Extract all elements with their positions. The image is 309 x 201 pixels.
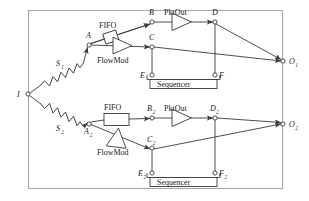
svg-text:1: 1 — [295, 62, 298, 68]
component-label-sequencer-top: Sequencer — [157, 80, 191, 89]
node-E[interactable] — [150, 73, 154, 77]
node-label-D: D — [211, 8, 218, 17]
node-A2[interactable] — [87, 122, 91, 126]
component-label-fifo-bottom: FIFO — [104, 103, 122, 112]
svg-text:2: 2 — [153, 140, 156, 146]
component-label-flowmod-top: FlowMod — [97, 56, 129, 65]
node-label-O2: O 2 — [289, 120, 298, 131]
svg-text:2: 2 — [225, 174, 228, 180]
node-O1[interactable] — [281, 59, 285, 63]
node-label-I: I — [16, 90, 20, 99]
component-label-pktout-top: PktOut — [164, 8, 187, 17]
component-label-sequencer-bottom: Sequencer — [157, 178, 191, 187]
svg-text:1: 1 — [61, 64, 64, 70]
node-label-A: A — [85, 31, 91, 40]
node-F2[interactable] — [213, 171, 217, 175]
node-C[interactable] — [150, 45, 154, 49]
block-diagram-svg: I A B C D E F O 1 A 2 B 2 C 2 D 2 E — [0, 0, 309, 201]
node-F[interactable] — [213, 73, 217, 77]
svg-text:E: E — [137, 169, 143, 178]
svg-text:2: 2 — [90, 132, 93, 138]
svg-text:S: S — [56, 59, 60, 68]
node-O2[interactable] — [281, 122, 285, 126]
svg-text:2: 2 — [216, 109, 219, 115]
node-label-B: B — [149, 8, 154, 17]
node-D[interactable] — [213, 20, 217, 24]
svg-text:S: S — [56, 124, 60, 133]
diagram-frame — [29, 11, 283, 189]
svg-text:D: D — [209, 104, 216, 113]
node-label-F: F — [218, 71, 224, 80]
component-label-flowmod-bottom: FlowMod — [97, 148, 129, 157]
node-label-O1: O 1 — [289, 57, 298, 68]
svg-text:B: B — [147, 104, 152, 113]
svg-text:A: A — [83, 127, 89, 136]
node-D2[interactable] — [213, 116, 217, 120]
node-E2[interactable] — [150, 171, 154, 175]
svg-text:2: 2 — [144, 174, 147, 180]
svg-text:O: O — [289, 120, 295, 129]
node-A[interactable] — [87, 43, 91, 47]
node-C2[interactable] — [150, 146, 154, 150]
svg-text:F: F — [218, 169, 224, 178]
node-label-C: C — [149, 33, 155, 42]
node-I[interactable] — [26, 92, 30, 96]
diagram-canvas: I A B C D E F O 1 A 2 B 2 C 2 D 2 E — [0, 0, 309, 201]
node-B2[interactable] — [150, 116, 154, 120]
svg-text:2: 2 — [295, 125, 298, 131]
node-B[interactable] — [150, 20, 154, 24]
node-label-E: E — [139, 71, 145, 80]
svg-text:2: 2 — [61, 129, 64, 135]
component-label-fifo-top: FIFO — [99, 21, 117, 30]
svg-text:2: 2 — [153, 109, 156, 115]
svg-text:O: O — [289, 57, 295, 66]
component-label-pktout-bottom: PktOut — [164, 104, 187, 113]
fifo-box-bottom — [104, 114, 129, 126]
